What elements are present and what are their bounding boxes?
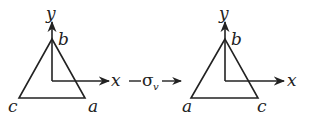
right-vertex-bottom-left: a [182, 96, 192, 115]
right-figure: y x b a c [182, 3, 297, 115]
right-vertex-top: b [231, 29, 242, 49]
right-y-label: y [218, 3, 229, 23]
left-vertex-top: b [58, 29, 69, 49]
symmetry-diagram: y x b c a σ v y x b a c [0, 0, 310, 115]
left-y-label: y [45, 3, 56, 23]
operation-subscript: v [153, 81, 159, 92]
sigma-v-operation: σ v [129, 70, 181, 92]
left-vertex-bottom-right: a [88, 96, 98, 115]
left-vertex-bottom-left: c [8, 96, 18, 115]
right-vertex-bottom-right: c [257, 96, 267, 115]
left-x-label: x [111, 70, 121, 90]
right-x-label: x [287, 70, 297, 90]
left-figure: y x b c a [8, 3, 121, 115]
